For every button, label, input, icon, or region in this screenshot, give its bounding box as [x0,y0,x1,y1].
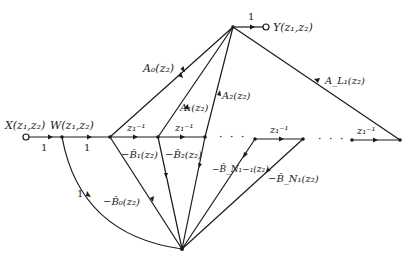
gain-input-to-w: 1 [41,142,47,153]
arrow-down-icon [164,173,168,178]
node-0 [108,135,112,139]
delay-label-3: z₁⁻¹ [269,124,289,135]
label-bn1-1: −B̂_N₁−₁(z₂) [212,163,269,175]
node-1 [156,135,160,139]
label-b0: −B̂₀(z₂) [103,196,140,207]
node-2 [203,135,207,139]
output-label: Y(z₁,z₂) [273,21,313,34]
label-bn1: −B̂_N₁(z₂) [268,173,319,185]
arrow-right-icon [180,135,185,140]
arrow-right-icon [279,137,284,142]
w-label: W(z₁,z₂) [50,119,94,132]
gain-feedback-return: 1 [77,188,83,199]
node-l1 [398,138,402,142]
arrow-right-icon [87,135,92,140]
input-label: X(z₁,z₂) [4,119,45,132]
label-b2: −B̂₂(z₂) [165,149,202,160]
arrow-right-icon [250,25,255,30]
arrow-up-icon [217,90,221,96]
node-n1-minus-1-start [253,137,257,141]
arrow-right-icon [373,138,378,143]
label-al1: A_L₁(z₂) [324,75,365,87]
node-sum-top [231,25,235,29]
label-a1: A₁(z₂) [179,102,208,113]
gain-w-to-chain: 1 [84,142,90,153]
node-w [60,135,64,139]
arrow-down-icon [243,152,248,158]
node-sum-bottom [180,247,184,251]
delay-label-4: z₁⁻¹ [356,125,376,136]
edge-a2 [205,27,233,137]
label-b1: −B̂₁(z₂) [121,149,158,160]
delay-label-1: z₁⁻¹ [126,122,146,133]
edge-a0 [110,27,233,137]
delay-label-2: z₁⁻¹ [174,122,194,133]
gain-to-output: 1 [248,11,254,22]
edge-a1 [158,27,233,137]
arrow-right-icon [133,135,138,140]
label-a0: A₀(z₂) [142,62,174,75]
signal-flow-diagram: X(z₁,z₂) W(z₁,z₂) Y(z₁,z₂) 1 1 1 1 z₁⁻¹ … [0,0,413,262]
input-port [23,134,29,140]
labels: X(z₁,z₂) W(z₁,z₂) Y(z₁,z₂) 1 1 1 1 z₁⁻¹ … [4,11,376,207]
edge-al1 [233,27,400,140]
output-branch [233,24,269,30]
ellipsis-2: · · · [318,133,345,146]
node-l1-start [350,138,354,142]
label-a2: A₂(z₂) [221,90,250,101]
output-port [263,24,269,30]
arrow-right-icon [48,135,53,140]
arrow-up-icon [86,191,91,197]
ellipsis-1: · · · [219,131,246,144]
node-n1 [301,137,305,141]
